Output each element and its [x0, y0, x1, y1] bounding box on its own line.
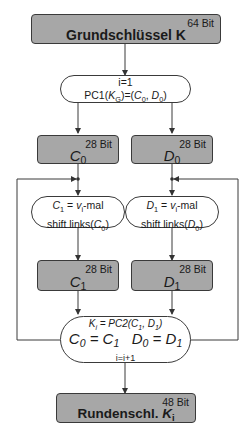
shift-c-operation: shift links(C0)	[32, 217, 124, 236]
init-counter: i=1	[61, 76, 190, 89]
update-node: Ki = PC2(C1, D1) C0 = C1 D0 = D1 i=i+1	[60, 316, 191, 363]
c0-box: 28 Bit C0	[37, 135, 119, 164]
round-key-box: 48 Bit Rundenschl. Ki	[56, 393, 196, 423]
d1-box: 28 Bit D1	[131, 260, 213, 291]
d1-label: D1	[132, 273, 212, 292]
round-key-label: Rundenschl. Ki	[57, 406, 195, 423]
shift-d-formula: D1 = vi-mal	[126, 198, 218, 217]
c0-label: C0	[38, 147, 118, 166]
shift-d-node: D1 = vi-mal shift links(D0)	[125, 196, 219, 228]
master-key-label: Grundschlüssel K	[32, 27, 220, 43]
increment-label: i=i+1	[61, 353, 190, 363]
c1-label: C1	[38, 273, 118, 292]
shift-c-formula: C1 = vi-mal	[32, 198, 124, 217]
d0-label: D0	[132, 147, 212, 166]
c1-box: 28 Bit C1	[37, 260, 119, 291]
master-key-box: 64 Bit Grundschlüssel K	[31, 14, 221, 44]
shift-d-operation: shift links(D0)	[126, 217, 218, 236]
pc1-formula: PC1(KG)=(C0, D0)	[61, 89, 190, 106]
init-node: i=1 PC1(KG)=(C0, D0)	[60, 75, 191, 103]
cd-update-formula: C0 = C1 D0 = D1	[61, 331, 190, 351]
shift-c-node: C1 = vi-mal shift links(C0)	[31, 196, 125, 228]
d0-box: 28 Bit D0	[131, 135, 213, 164]
